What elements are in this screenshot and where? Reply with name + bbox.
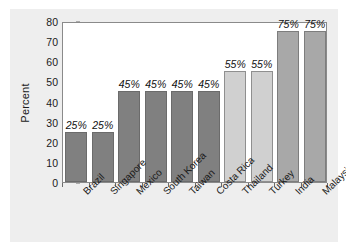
y-axis-tick-labels: 01020304050607080 <box>28 17 58 192</box>
x-tick-label: Mexico <box>134 189 142 197</box>
x-tick-label: India <box>293 189 301 197</box>
bar-value-label: 45% <box>145 78 166 90</box>
bar-slot: 75% <box>275 23 302 182</box>
bar-value-label: 45% <box>119 78 140 90</box>
bar[interactable] <box>304 31 326 182</box>
y-tick-label: 60 <box>28 56 58 68</box>
y-tick-label: 70 <box>28 36 58 48</box>
x-tick-label: South Korea <box>161 189 169 197</box>
x-axis-tick-labels: BrazilSingaporeMexicoSouth KoreaTaiwanCo… <box>62 189 327 249</box>
y-tick-label: 0 <box>28 177 58 189</box>
bar-value-label: 55% <box>251 58 272 70</box>
bar-value-label: 75% <box>278 18 299 30</box>
bar[interactable] <box>277 31 299 182</box>
bar-value-label: 45% <box>198 78 219 90</box>
bar-slot: 45% <box>143 23 170 182</box>
x-tick-mark <box>62 183 63 187</box>
y-tick-label: 40 <box>28 97 58 109</box>
y-tick-label: 20 <box>28 137 58 149</box>
bar[interactable] <box>65 132 87 182</box>
bar-value-label: 75% <box>304 18 325 30</box>
x-tick-label: Singapore <box>108 189 116 197</box>
x-tick-label: Taiwan <box>187 189 195 197</box>
x-tick-label: Costa Rica <box>214 189 222 197</box>
bar-slot: 25% <box>90 23 117 182</box>
x-tick-label: Brazil <box>81 189 89 197</box>
bar-value-label: 55% <box>225 58 246 70</box>
y-tick-label: 80 <box>28 16 58 28</box>
y-tick-label: 10 <box>28 157 58 169</box>
x-tick-label: Malaysia <box>320 189 328 197</box>
bar-value-label: 25% <box>66 119 87 131</box>
x-tick-label: Thailand <box>240 189 248 197</box>
x-tick-label: Turkey <box>267 189 275 197</box>
bar-slot: 75% <box>302 23 329 182</box>
bar-slot: 25% <box>63 23 90 182</box>
y-tick-label: 50 <box>28 76 58 88</box>
bar-value-label: 45% <box>172 78 193 90</box>
bar-value-label: 25% <box>92 119 113 131</box>
chart-panel: Percent 01020304050607080 25%25%45%45%45… <box>10 9 338 242</box>
y-tick-label: 30 <box>28 117 58 129</box>
